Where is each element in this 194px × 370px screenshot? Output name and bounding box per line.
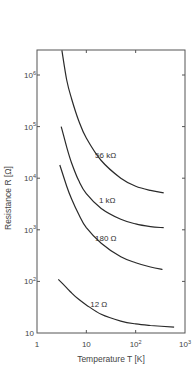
x-axis-label: Temperature T [K]	[77, 354, 145, 364]
y-tick-label: 102	[24, 276, 36, 287]
plot-frame	[37, 50, 185, 333]
y-tick-label: 106	[24, 70, 36, 81]
curve-label: 180 Ω	[95, 234, 117, 243]
y-tick-label: 104	[24, 173, 36, 184]
y-tick-label: 10	[25, 329, 34, 338]
curve-label: 1 kΩ	[99, 196, 116, 205]
x-tick-label: 1	[35, 340, 40, 349]
y-tick-label: 103	[24, 224, 36, 235]
plot-border	[37, 50, 185, 333]
curve-1k	[61, 127, 164, 228]
resistance-temperature-chart: 10102103104105106 110102103 56 kΩ1 kΩ180…	[0, 0, 194, 370]
x-tick-label: 102	[130, 339, 142, 350]
curve-180	[60, 165, 163, 270]
curve-56k	[62, 50, 164, 193]
curve-labels: 56 kΩ1 kΩ180 Ω12 Ω	[90, 151, 116, 309]
y-tick-label: 105	[24, 121, 36, 132]
curve-label: 12 Ω	[90, 300, 107, 309]
curve-label: 56 kΩ	[95, 151, 116, 160]
x-tick-label: 103	[179, 339, 191, 350]
y-axis-label: Resistance R [Ω]	[3, 166, 13, 230]
x-tick-label: 10	[82, 340, 91, 349]
curve-12	[58, 279, 174, 327]
curves	[58, 50, 174, 327]
